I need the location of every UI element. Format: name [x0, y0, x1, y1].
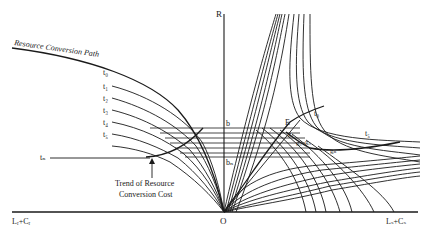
gn-label: gₙ: [330, 147, 337, 155]
origin-label: O: [220, 216, 227, 226]
trend-label-line2: Conversion Cost: [119, 190, 173, 199]
y-axis-label: R: [216, 9, 222, 19]
right-fan-curves: [224, 14, 420, 212]
curve-label-t2: t₂: [103, 94, 108, 103]
x-right-label: Lₛ+Cₛ: [386, 217, 406, 226]
bn-label: bₙ: [226, 158, 234, 167]
curve-label-tn: tₙ: [40, 153, 46, 162]
t0-right-label: t₀: [314, 109, 319, 118]
curve-label-t1: t₁: [103, 82, 108, 91]
curve-label-t4: t₄: [103, 118, 108, 127]
g1-label: g₁: [288, 130, 294, 138]
trend-label-line1: Trend of Resource: [115, 179, 175, 188]
resource-conversion-diagram: R O Lᵣ+Cᵣ Lₛ+Cₛ Resource Conversion Path…: [0, 0, 424, 238]
x-left-label: Lᵣ+Cᵣ: [12, 217, 31, 226]
curve-label-t0: t₀: [103, 68, 108, 77]
g3-label: g₃: [305, 138, 312, 146]
b-label: b: [226, 119, 230, 128]
E-label: E: [285, 118, 290, 127]
curve-label-t5: t₅: [103, 130, 108, 139]
curve-label-t3: t₃: [103, 106, 108, 115]
g2-label: g₂: [296, 139, 303, 147]
t5-right-label: t₅: [365, 129, 370, 138]
